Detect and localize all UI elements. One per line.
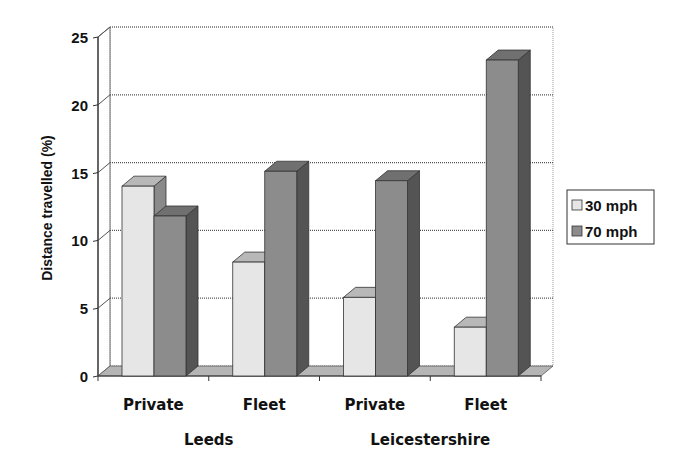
x-group-label: Leicestershire — [370, 431, 490, 449]
legend-label-30mph: 30 mph — [585, 197, 638, 214]
bar — [154, 206, 198, 376]
bar-chart: 0510152025 PrivateFleetPrivateFleetLeeds… — [0, 0, 685, 470]
x-group-label: Leeds — [184, 431, 234, 449]
legend-swatch-70mph — [572, 226, 582, 236]
y-tick-label: 25 — [71, 29, 88, 46]
y-axis: 0510152025 — [71, 29, 98, 385]
x-category-label: Private — [344, 396, 405, 414]
x-category-label: Fleet — [464, 396, 507, 414]
x-category-label: Private — [123, 396, 184, 414]
legend-swatch-30mph — [572, 200, 582, 210]
y-tick-label: 20 — [71, 97, 88, 114]
bar — [486, 50, 530, 376]
y-axis-label: Distance travelled (%) — [39, 135, 55, 281]
y-tick-label: 15 — [71, 165, 88, 182]
y-tick-label: 10 — [71, 232, 88, 249]
x-axis: PrivateFleetPrivateFleetLeedsLeicestersh… — [98, 376, 541, 449]
x-category-label: Fleet — [243, 396, 286, 414]
bar — [265, 161, 309, 376]
y-tick-label: 0 — [80, 368, 88, 385]
legend-label-70mph: 70 mph — [585, 223, 638, 240]
legend: 30 mph 70 mph — [567, 190, 654, 244]
bar — [376, 171, 420, 376]
y-tick-label: 5 — [80, 300, 88, 317]
